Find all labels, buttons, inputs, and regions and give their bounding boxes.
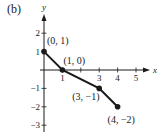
y-axis-label: y: [41, 2, 46, 12]
y-tick-label: −1: [30, 83, 40, 93]
x-tick-label: 3: [97, 73, 102, 83]
y-tick-label: −2: [30, 102, 40, 112]
point-annotation: (3, −1): [72, 91, 99, 103]
y-tick-label: 1: [36, 47, 41, 57]
x-tick-label: 1: [60, 73, 65, 83]
point-annotation: (4, −2): [108, 114, 135, 126]
y-tick-label: 2: [36, 28, 41, 38]
y-tick-label: −3: [30, 120, 40, 130]
data-point: [96, 86, 102, 92]
x-axis-arrow-icon: [143, 68, 150, 73]
data-point: [60, 67, 66, 73]
x-axis-label: x: [152, 65, 157, 75]
data-point: [115, 104, 121, 110]
point-annotation: (1, 0): [63, 55, 85, 67]
point-annotation: (0, 1): [47, 35, 69, 47]
axes: xy: [40, 2, 157, 132]
data-point: [41, 49, 47, 55]
chart-svg: xy 134521−1−2−3 (0, 1)(1, 0)(3, −1)(4, −…: [0, 0, 165, 140]
x-tick-label: 4: [115, 73, 120, 83]
y-axis-arrow-icon: [42, 14, 47, 21]
x-tick-label: 5: [134, 73, 139, 83]
